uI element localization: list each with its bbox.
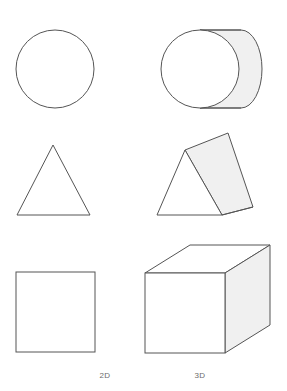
column-label-3d: 3D bbox=[180, 371, 220, 380]
triangular-prism-3d bbox=[157, 133, 253, 215]
cylinder-front-face bbox=[161, 30, 239, 108]
row-triangle-prism bbox=[17, 133, 253, 215]
triangle-2d bbox=[17, 145, 90, 215]
row-circle-cylinder bbox=[16, 30, 262, 108]
square-2d bbox=[16, 272, 95, 352]
shapes-diagram bbox=[0, 0, 287, 391]
column-label-2d: 2D bbox=[85, 371, 125, 380]
cube-3d bbox=[145, 245, 270, 353]
circle-2d bbox=[16, 30, 94, 108]
row-square-cube bbox=[16, 245, 270, 353]
cube-front-face bbox=[145, 273, 225, 353]
cylinder-3d bbox=[161, 30, 262, 108]
